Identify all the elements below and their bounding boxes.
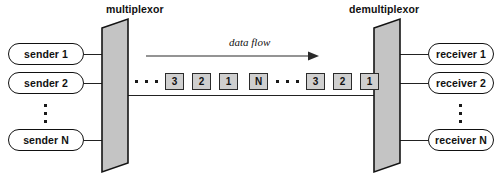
stream-cell-0: 3 xyxy=(165,73,184,90)
stream-cell-6-label: 1 xyxy=(367,76,373,87)
node-receiver-n[interactable]: receiver N xyxy=(428,129,494,151)
node-receiver-2-label: receiver 2 xyxy=(436,77,486,89)
stream-cell-4-label: 3 xyxy=(313,76,319,87)
multiplexor-shape xyxy=(102,19,128,172)
stream-cell-2-label: 1 xyxy=(226,76,232,87)
node-sender-1[interactable]: sender 1 xyxy=(8,43,84,65)
stream-cell-3: N xyxy=(249,73,268,90)
node-receiver-1[interactable]: receiver 1 xyxy=(428,43,494,65)
stream-cell-2: 1 xyxy=(219,73,238,90)
sender-vertical-ellipsis xyxy=(44,104,47,123)
stream-cell-1: 2 xyxy=(192,73,211,90)
node-receiver-2[interactable]: receiver 2 xyxy=(428,72,494,94)
stream-cell-0-label: 3 xyxy=(172,76,178,87)
stream-cell-3-label: N xyxy=(255,76,262,87)
stream-cell-5: 2 xyxy=(333,73,352,90)
node-sender-n[interactable]: sender N xyxy=(8,129,84,151)
node-sender-2-label: sender 2 xyxy=(24,77,68,89)
data-flow-arrow xyxy=(146,52,319,61)
node-sender-n-label: sender N xyxy=(23,134,69,146)
stream-cell-5-label: 2 xyxy=(340,76,346,87)
node-sender-2[interactable]: sender 2 xyxy=(8,72,84,94)
multiplexing-diagram: multiplexor demultiplexor data flow send… xyxy=(0,0,499,182)
node-receiver-n-label: receiver N xyxy=(435,134,487,146)
stream-cell-1-label: 2 xyxy=(199,76,205,87)
node-sender-1-label: sender 1 xyxy=(24,48,68,60)
demultiplexor-shape xyxy=(374,19,400,172)
stream-cell-6: 1 xyxy=(360,73,379,90)
stream-middle-ellipsis xyxy=(276,80,299,83)
node-receiver-1-label: receiver 1 xyxy=(436,48,486,60)
data-flow-label: data flow xyxy=(229,36,270,48)
stream-cell-4: 3 xyxy=(306,73,325,90)
stream-leading-ellipsis xyxy=(135,80,158,83)
receiver-vertical-ellipsis xyxy=(459,104,462,123)
